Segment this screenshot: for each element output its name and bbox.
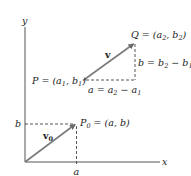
point-q-label: Q = (a2, b2) [131,29,187,42]
x-axis-label: x [162,156,168,167]
horizontal-component-label: a = a2 − a1 [88,84,141,97]
y-tick-label-b: b [15,118,21,129]
vector-diagram: y x b a v0 P0 = (a, b) v Q = (a2, b2) P … [0,0,191,176]
vector-v-label: v [104,49,111,60]
y-axis-label: y [21,15,28,26]
x-tick-label-a: a [74,166,80,176]
vertical-component-label: b = b2 − b1 [138,57,191,70]
point-p0-label: P0 = (a, b) [79,117,130,130]
vector-v0-label: v0 [42,130,54,143]
vector-v0-arrow [25,125,75,163]
point-p-label: P = (a1, b1) [31,75,86,88]
